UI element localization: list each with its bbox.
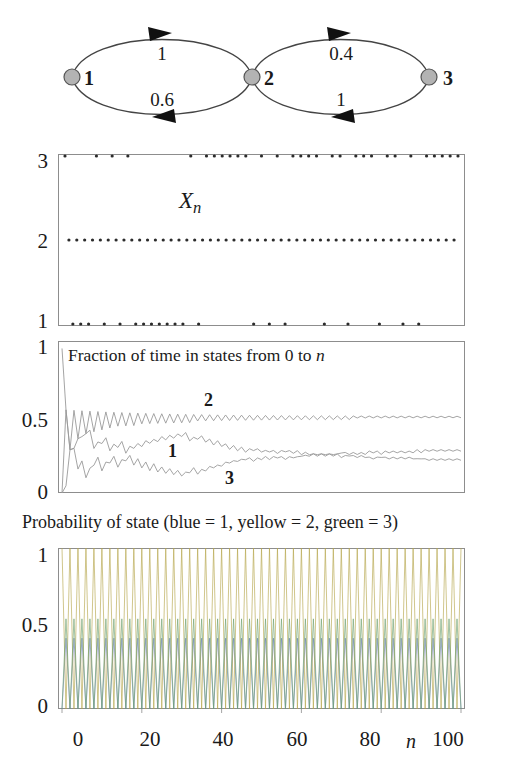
trajectory-point xyxy=(118,322,121,325)
trajectory-point xyxy=(358,238,361,241)
trajectory-point xyxy=(252,322,255,325)
state-diagram: 1 2 3 1 0.6 0.4 1 xyxy=(0,0,505,148)
trajectory-point xyxy=(162,238,165,241)
trajectory-panel: 3 2 1 Xn xyxy=(0,148,505,333)
state-node-label-3: 3 xyxy=(443,68,453,88)
trajectory-point xyxy=(291,154,294,157)
trajectory-point xyxy=(228,154,231,157)
fraction-caption: Fraction of time in states from 0 to n xyxy=(68,347,325,365)
trajectory-point xyxy=(236,154,239,157)
trajectory-point xyxy=(177,238,180,241)
trajectory-point xyxy=(327,238,330,241)
trajectory-point xyxy=(260,154,263,157)
trajectory-point xyxy=(185,238,188,241)
trajectory-point xyxy=(350,238,353,241)
trajectory-point xyxy=(405,238,408,241)
trajectory-point xyxy=(189,154,192,157)
trajectory-point xyxy=(268,322,271,325)
trajectory-point xyxy=(441,154,444,157)
trajectory-point xyxy=(386,154,389,157)
probability-curve-yellow-2 xyxy=(62,548,461,709)
trajectory-point xyxy=(221,154,224,157)
trajectory-point xyxy=(421,238,424,241)
trajectory-point xyxy=(142,322,145,325)
trajectory-point xyxy=(346,322,349,325)
trajectory-point xyxy=(107,238,110,241)
trajectory-point xyxy=(417,322,420,325)
trajectory-point xyxy=(409,154,412,157)
trajectory-point xyxy=(287,238,290,241)
trajectory-point xyxy=(280,238,283,241)
trajectory-point xyxy=(201,238,204,241)
trajectory-point xyxy=(272,238,275,241)
trajectory-point xyxy=(240,238,243,241)
trajectory-point xyxy=(114,238,117,241)
trajectory-point xyxy=(181,322,184,325)
trajectory-point xyxy=(158,322,161,325)
edge-label-3-to-2: 1 xyxy=(321,90,361,109)
trajectory-point xyxy=(71,322,74,325)
trajectory-point xyxy=(425,154,428,157)
trajectory-point xyxy=(213,154,216,157)
edge-label-2-to-3: 0.4 xyxy=(319,44,363,63)
trajectory-point xyxy=(134,322,137,325)
trajectory-point xyxy=(307,154,310,157)
trajectory-point xyxy=(276,154,279,157)
trajectory-point xyxy=(437,238,440,241)
trajectory-point xyxy=(146,238,149,241)
fraction-curve-label-1: 1 xyxy=(168,442,177,460)
trajectory-point xyxy=(87,322,90,325)
trajectory-annotation-X: X xyxy=(179,188,193,213)
trajectory-point xyxy=(339,154,342,157)
state-node-1 xyxy=(64,69,80,85)
trajectory-point xyxy=(91,238,94,241)
trajectory-point xyxy=(311,238,314,241)
trajectory-point xyxy=(209,238,212,241)
trajectory-point xyxy=(111,154,114,157)
fraction-caption-text: Fraction of time in states from 0 to xyxy=(68,345,316,365)
trajectory-point xyxy=(138,238,141,241)
trajectory-point xyxy=(170,238,173,241)
arrowhead-2-to-1 xyxy=(152,109,176,123)
trajectory-point xyxy=(95,154,98,157)
trajectory-point xyxy=(323,322,326,325)
probability-xtick-80: 80 xyxy=(350,729,390,750)
trajectory-point xyxy=(130,238,133,241)
trajectory-point xyxy=(67,238,70,241)
trajectory-point xyxy=(378,322,381,325)
trajectory-point xyxy=(335,238,338,241)
trajectory-point xyxy=(244,154,247,157)
trajectory-point xyxy=(354,154,357,157)
trajectory-point xyxy=(103,322,106,325)
trajectory-point xyxy=(225,238,228,241)
trajectory-point xyxy=(126,154,129,157)
trajectory-point xyxy=(456,154,459,157)
trajectory-point xyxy=(264,238,267,241)
trajectory-point xyxy=(63,154,66,157)
fraction-curve-label-3: 3 xyxy=(225,469,234,487)
trajectory-point xyxy=(331,154,334,157)
trajectory-point xyxy=(166,322,169,325)
probability-panel: Probability of state (blue = 1, yellow =… xyxy=(0,505,505,779)
trajectory-point xyxy=(122,238,125,241)
trajectory-point xyxy=(433,154,436,157)
trajectory-point xyxy=(283,322,286,325)
trajectory-point xyxy=(173,322,176,325)
trajectory-point xyxy=(366,238,369,241)
trajectory-point xyxy=(382,238,385,241)
arrowhead-3-to-2 xyxy=(331,109,355,123)
fraction-panel: 1 0.5 0 Fraction of time in states from … xyxy=(0,333,505,505)
probability-xaxis-symbol: n xyxy=(396,731,426,751)
trajectory-point xyxy=(397,238,400,241)
trajectory-point xyxy=(370,154,373,157)
trajectory-point xyxy=(394,154,397,157)
trajectory-point xyxy=(319,238,322,241)
trajectory-point xyxy=(362,154,365,157)
probability-xtick-40: 40 xyxy=(203,729,243,750)
probability-xtick-60: 60 xyxy=(277,729,317,750)
trajectory-point xyxy=(232,238,235,241)
fraction-curve-label-2: 2 xyxy=(204,391,213,409)
trajectory-point xyxy=(452,238,455,241)
probability-xtick-100: 100 xyxy=(424,729,472,750)
trajectory-point xyxy=(315,154,318,157)
